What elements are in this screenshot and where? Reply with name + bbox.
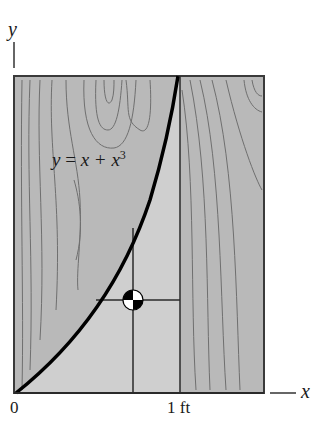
y-axis-label: y bbox=[8, 18, 17, 41]
equation-eq: = bbox=[65, 149, 76, 170]
diagram-canvas bbox=[0, 0, 324, 436]
centroid-icon bbox=[123, 290, 143, 310]
tick-one-ft: 1 ft bbox=[167, 398, 190, 418]
equation-exponent: 3 bbox=[120, 148, 126, 162]
equation-label: y = x + x3 bbox=[52, 148, 126, 171]
x-axis-label: x bbox=[301, 380, 310, 403]
equation-lhs: y bbox=[52, 149, 60, 170]
tick-origin: 0 bbox=[10, 398, 19, 418]
equation-rhs: x + x bbox=[81, 149, 120, 170]
